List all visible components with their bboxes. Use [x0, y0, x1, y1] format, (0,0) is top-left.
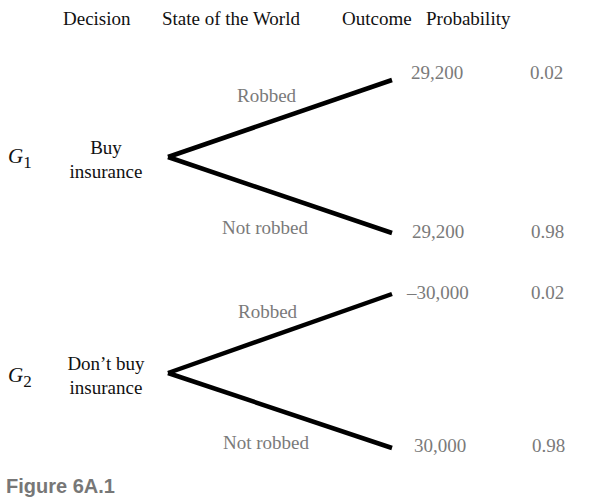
decision-g2: Don’t buy insurance	[56, 352, 156, 400]
decision-g1: Buy insurance	[56, 136, 156, 184]
outcome-g2-robbed: –30,000	[407, 282, 469, 304]
decision-g2-line2: insurance	[56, 376, 156, 400]
outcome-g1-not-robbed: 29,200	[412, 221, 464, 243]
probability-g2-robbed: 0.02	[531, 282, 564, 304]
outcome-g2-not-robbed: 30,000	[414, 435, 466, 457]
state-g2-robbed: Robbed	[238, 301, 297, 323]
gamble-label-g2: G2	[8, 363, 32, 392]
probability-g2-not-robbed: 0.98	[532, 435, 565, 457]
gamble-label-g1: G1	[8, 144, 32, 173]
decision-g1-line1: Buy	[56, 136, 156, 160]
decision-g2-line1: Don’t buy	[56, 352, 156, 376]
figure-caption: Figure 6A.1	[6, 475, 115, 498]
header-outcome: Outcome	[342, 8, 412, 30]
decision-g1-line2: insurance	[56, 160, 156, 184]
header-probability: Probability	[426, 8, 510, 30]
state-g1-not-robbed: Not robbed	[222, 217, 308, 239]
state-g1-robbed: Robbed	[237, 85, 296, 107]
outcome-g1-robbed: 29,200	[411, 62, 463, 84]
probability-g1-robbed: 0.02	[530, 62, 563, 84]
header-state: State of the World	[162, 8, 300, 30]
probability-g1-not-robbed: 0.98	[531, 221, 564, 243]
header-decision: Decision	[63, 8, 131, 30]
state-g2-not-robbed: Not robbed	[223, 432, 309, 454]
